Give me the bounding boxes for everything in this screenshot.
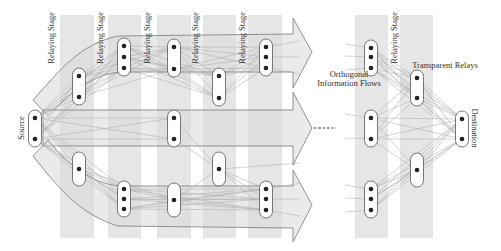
antenna-dot bbox=[122, 66, 127, 71]
relay-node-s3-middle bbox=[168, 110, 181, 147]
relay-node-s5-top bbox=[260, 39, 273, 76]
antenna-dot bbox=[33, 137, 38, 142]
relay-node-s2-bottom bbox=[118, 181, 131, 217]
relay-node-s4-middle bbox=[213, 152, 226, 186]
antenna-dot bbox=[217, 167, 222, 172]
antenna-dot bbox=[369, 55, 374, 60]
transparent-relays-label: Transparent Relays bbox=[412, 60, 478, 70]
stage-label-2: Relaying Stage bbox=[95, 12, 105, 64]
node-capsule bbox=[29, 110, 42, 147]
antenna-dot bbox=[264, 45, 269, 50]
antenna-dot bbox=[77, 167, 82, 172]
node-capsule bbox=[168, 110, 181, 147]
antenna-dot bbox=[369, 46, 374, 51]
antenna-dot bbox=[172, 198, 177, 203]
relay-node-s1-top bbox=[73, 68, 86, 105]
antenna-dot bbox=[415, 96, 420, 101]
antenna-dot bbox=[122, 44, 127, 49]
relay-node-r1-bottom bbox=[365, 181, 378, 218]
relay-node-r1-middle bbox=[365, 110, 378, 147]
antenna-dot bbox=[369, 66, 374, 71]
node-capsule bbox=[456, 111, 469, 147]
antenna-dot bbox=[264, 66, 269, 71]
antenna-dot bbox=[172, 67, 177, 72]
destination-label: Destination bbox=[470, 108, 480, 148]
antenna-dot bbox=[122, 55, 127, 60]
antenna-dot bbox=[172, 45, 177, 50]
relay-diagram: Relaying Stage Relaying Stage Relaying S… bbox=[0, 0, 501, 251]
antenna-dot bbox=[217, 74, 222, 79]
stage-label-3: Relaying Stage bbox=[142, 12, 152, 64]
antenna-dot bbox=[264, 55, 269, 60]
antenna-dot bbox=[77, 74, 82, 79]
stage-label-1: Relaying Stage bbox=[46, 12, 56, 64]
node-capsule bbox=[365, 110, 378, 147]
antenna-dot bbox=[460, 137, 465, 142]
antenna-dot bbox=[460, 117, 465, 122]
stage-label-4: Relaying Stage bbox=[190, 12, 200, 64]
stage-label-5: Relaying Stage bbox=[237, 12, 247, 64]
antenna-dot bbox=[122, 187, 127, 192]
antenna-dot bbox=[122, 207, 127, 212]
antenna-dot bbox=[172, 137, 177, 142]
source-label: Source bbox=[16, 116, 26, 140]
relay-node-s4-top bbox=[213, 68, 226, 106]
relay-node-s3-top bbox=[168, 39, 181, 77]
antenna-dot bbox=[33, 116, 38, 121]
antenna-dot bbox=[369, 137, 374, 142]
node-capsule bbox=[411, 70, 424, 106]
antenna-dot bbox=[415, 168, 420, 173]
antenna-dot bbox=[264, 208, 269, 213]
antenna-dot bbox=[77, 95, 82, 100]
antenna-dot bbox=[369, 208, 374, 213]
antenna-dot bbox=[369, 187, 374, 192]
antenna-dot bbox=[264, 197, 269, 202]
node-capsule bbox=[73, 68, 86, 105]
stage-label-6: Relaying Stage bbox=[389, 12, 399, 64]
antenna-dot bbox=[369, 116, 374, 121]
node-capsule bbox=[213, 68, 226, 106]
orthogonal-flows-label-line2: Information Flows bbox=[317, 78, 381, 88]
relay-node-destination bbox=[456, 111, 469, 147]
antenna-dot bbox=[415, 76, 420, 81]
antenna-dot bbox=[369, 197, 374, 202]
relay-node-s2-top bbox=[118, 38, 131, 76]
relay-node-source bbox=[29, 110, 42, 147]
antenna-dot bbox=[217, 96, 222, 101]
antenna-dot bbox=[122, 197, 127, 202]
relay-node-s3-bottom bbox=[168, 183, 181, 217]
antenna-dot bbox=[264, 187, 269, 192]
relay-node-r2-top bbox=[411, 70, 424, 106]
relay-node-r2-bottom bbox=[411, 153, 424, 187]
relay-node-s5-bottom bbox=[260, 181, 273, 218]
antenna-dot bbox=[172, 116, 177, 121]
relay-node-s1-bottom bbox=[73, 152, 86, 186]
